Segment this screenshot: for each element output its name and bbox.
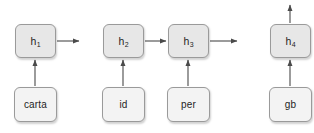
state-node-h1: h1	[15, 24, 56, 58]
token-node-carta-label: carta	[24, 100, 47, 110]
state-node-h2-label: h2	[118, 36, 128, 47]
state-node-h3-label: h3	[183, 36, 193, 47]
token-node-carta: carta	[14, 87, 57, 122]
token-node-gb-label: gb	[285, 100, 297, 110]
state-node-h4: h4	[270, 24, 311, 58]
state-node-h1-label: h1	[30, 36, 40, 47]
state-node-h3: h3	[168, 24, 209, 58]
state-node-h4-label: h4	[285, 36, 295, 47]
token-node-id-label: id	[119, 100, 127, 110]
token-node-per-label: per	[181, 100, 196, 110]
token-node-gb: gb	[269, 87, 312, 122]
token-node-per: per	[167, 87, 210, 122]
diagram-canvas: h1 h2 h3 h4 carta id per gb	[0, 0, 314, 133]
token-node-id: id	[102, 87, 145, 122]
state-node-h2: h2	[103, 24, 144, 58]
